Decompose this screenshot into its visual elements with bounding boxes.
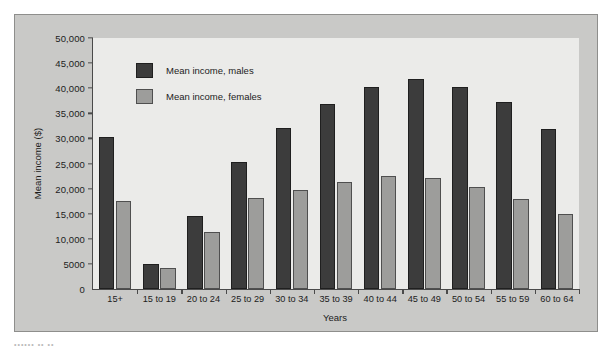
x-axis-tick-label: 35 to 39	[319, 294, 352, 304]
plot-area: 0500010,00015,00020,00025,00030,00035,00…	[92, 38, 579, 290]
chart-figure: Mean income ($) 0500010,00015,00020,0002…	[14, 14, 598, 332]
y-axis-tick-mark	[88, 188, 93, 189]
x-axis-tick-label: 55 to 59	[496, 294, 529, 304]
x-axis-tick-mark	[358, 289, 359, 294]
bar-female	[558, 214, 574, 289]
figure-caption: •••••• •• ••	[14, 341, 54, 348]
x-axis-tick-label: 15+	[107, 294, 123, 304]
x-axis-tick-mark	[137, 289, 138, 294]
bar-female	[160, 268, 176, 289]
x-axis-tick-mark	[402, 289, 403, 294]
x-axis-tick-mark	[579, 289, 580, 294]
x-axis-tick-mark	[314, 289, 315, 294]
x-axis-tick-label: 20 to 24	[187, 294, 220, 304]
bar-male	[364, 87, 380, 289]
bar-female	[381, 176, 397, 289]
x-axis-tick-mark	[226, 289, 227, 294]
y-axis-tick-label: 0	[80, 284, 93, 295]
x-axis-tick-mark	[491, 289, 492, 294]
bar-male	[320, 104, 336, 289]
legend-label-females: Mean income, females	[166, 91, 262, 102]
x-axis-tick-label: 40 to 44	[364, 294, 397, 304]
bar-male	[276, 128, 292, 289]
x-axis-tick-label: 45 to 49	[408, 294, 441, 304]
bar-female	[469, 187, 485, 289]
bar-male	[452, 87, 468, 289]
x-axis-tick-mark	[535, 289, 536, 294]
bar-male	[231, 162, 247, 290]
x-axis-tick-label: 15 to 19	[143, 294, 176, 304]
legend: Mean income, males Mean income, females	[136, 57, 262, 109]
bar-male	[187, 216, 203, 289]
bar-female	[204, 232, 220, 289]
y-axis-tick-mark	[88, 238, 93, 239]
y-axis-tick-mark	[88, 138, 93, 139]
bar-female	[425, 178, 441, 289]
x-axis-label: Years	[92, 312, 578, 323]
x-axis-tick-label: 30 to 34	[275, 294, 308, 304]
y-axis-tick-mark	[88, 163, 93, 164]
x-axis-tick-mark	[446, 289, 447, 294]
legend-item-females: Mean income, females	[136, 83, 262, 109]
y-axis-tick-mark	[88, 113, 93, 114]
bar-male	[541, 129, 557, 289]
y-axis-tick-mark	[88, 37, 93, 38]
legend-item-males: Mean income, males	[136, 57, 262, 83]
bar-female	[116, 201, 132, 289]
bar-female	[337, 182, 353, 289]
x-axis-tick-mark	[181, 289, 182, 294]
legend-swatch-males-icon	[136, 63, 153, 78]
y-axis-label: Mean income ($)	[31, 38, 45, 289]
x-axis-tick-mark	[270, 289, 271, 294]
bar-male	[143, 264, 159, 289]
bar-male	[408, 79, 424, 289]
legend-swatch-females-icon	[136, 89, 153, 104]
bar-male	[496, 102, 512, 289]
y-axis-tick-mark	[88, 213, 93, 214]
x-axis-tick-label: 50 to 54	[452, 294, 485, 304]
bar-female	[513, 199, 529, 289]
bar-female	[248, 198, 264, 289]
y-axis-tick-mark	[88, 263, 93, 264]
y-axis-tick-mark	[88, 62, 93, 63]
y-axis-tick-mark	[88, 88, 93, 89]
legend-label-males: Mean income, males	[166, 65, 254, 76]
x-axis-tick-label: 25 to 29	[231, 294, 264, 304]
x-axis-tick-label: 60 to 64	[540, 294, 573, 304]
bar-female	[293, 190, 309, 289]
bar-male	[99, 137, 115, 289]
